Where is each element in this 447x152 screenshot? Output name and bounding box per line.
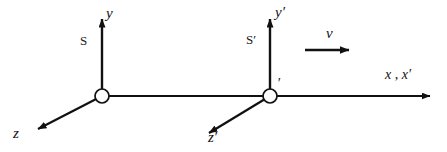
z-axis-label: z bbox=[13, 126, 19, 141]
y-axis-label: y bbox=[106, 6, 113, 21]
origin-marker-S bbox=[95, 89, 109, 103]
velocity-label: v bbox=[326, 26, 333, 41]
z-axis-line bbox=[38, 96, 102, 129]
origin-marker-S-prime bbox=[263, 89, 277, 103]
x-axis-label: x , x′ bbox=[385, 68, 411, 82]
z-prime-axis-line bbox=[209, 96, 270, 133]
physics-reference-frames-figure: y y′ x , x′ z z′ v S S′ ′ bbox=[0, 0, 447, 152]
z-prime-axis-label: z′ bbox=[208, 130, 217, 145]
frame-label-S-prime: S′ bbox=[246, 33, 256, 46]
y-prime-axis-label: y′ bbox=[275, 5, 285, 20]
frame-label-S: S bbox=[80, 34, 87, 47]
origin-prime-label: ′ bbox=[277, 77, 280, 91]
coordinate-axes-drawing bbox=[0, 0, 447, 152]
